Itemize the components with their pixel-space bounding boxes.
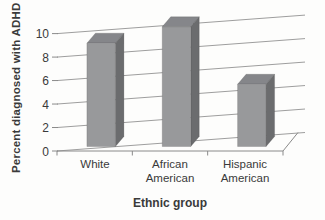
x-tick-label-hispanic-american: Hispanic American — [203, 158, 287, 185]
y-tick-label-10: 10 — [36, 27, 50, 41]
plot-area: 0246810 — [0, 0, 325, 220]
bar-white — [87, 33, 124, 146]
bar-hispanic-american-front-face — [238, 84, 267, 146]
x-tick-label-african-american: African American — [128, 158, 212, 185]
y-tick-label-0: 0 — [42, 145, 49, 159]
x-tick-label-white: White — [53, 158, 137, 172]
y-tick-label-2: 2 — [42, 121, 49, 135]
y-tick-label-4: 4 — [42, 98, 49, 112]
bar-hispanic-american — [238, 74, 275, 146]
bar-african-american-front-face — [162, 27, 191, 147]
y-axis-title: Percent diagnosed with ADHD — [10, 3, 22, 173]
bar-white-front-face — [87, 43, 116, 146]
bar-african-american — [162, 17, 199, 147]
bar-white-side-face — [115, 33, 124, 146]
bar-african-american-side-face — [191, 17, 200, 147]
y-tick-label-8: 8 — [42, 51, 49, 65]
bar-hispanic-american-side-face — [266, 74, 275, 146]
x-axis-title: Ethnic group — [110, 196, 230, 210]
adhd-bar-chart-figure: 0246810 Percent diagnosed with ADHD Whit… — [0, 0, 325, 220]
y-tick-label-6: 6 — [42, 74, 49, 88]
floor-right-edge — [283, 133, 298, 152]
